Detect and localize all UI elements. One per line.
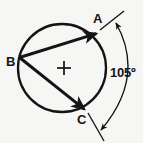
leader-line-a [100, 11, 124, 30]
point-label-a: A [93, 12, 102, 25]
leader-line-c [88, 113, 104, 141]
center-cross-icon [57, 61, 71, 75]
chord-b-to-c [20, 58, 85, 110]
point-label-b: B [6, 55, 15, 68]
point-label-c: C [77, 113, 86, 126]
arc-measure-label: 105º [110, 66, 136, 79]
geometry-figure-canvas: A B C 105º [0, 0, 143, 143]
